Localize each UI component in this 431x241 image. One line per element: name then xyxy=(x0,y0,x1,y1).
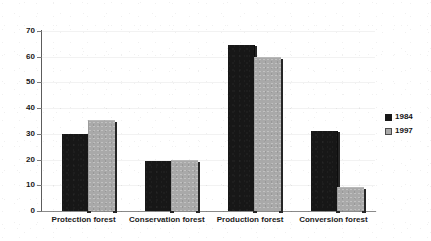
bar-chart: 010203040506070 Protection forestConserv… xyxy=(0,0,431,241)
legend-item-1997: 1997 xyxy=(385,124,431,138)
bar-1997-production-forest xyxy=(254,57,281,211)
bar-group xyxy=(311,31,363,211)
y-tick-label: 10 xyxy=(0,181,35,189)
bar-1984-protection-forest xyxy=(62,134,89,211)
legend-label-1984: 1984 xyxy=(395,113,413,121)
y-tick-label: 70 xyxy=(0,27,35,35)
bar-1984-production-forest xyxy=(228,45,255,211)
y-tick-label: 20 xyxy=(0,156,35,164)
bar-1984-conservation-forest xyxy=(145,161,172,211)
category-label: Conversion forest xyxy=(292,215,375,225)
plot-area xyxy=(42,31,375,211)
bar-group xyxy=(145,31,197,211)
bar-1997-protection-forest xyxy=(88,120,115,211)
y-tick-label: 50 xyxy=(0,78,35,86)
y-tick-label: 0 xyxy=(0,207,35,215)
x-axis-line xyxy=(41,211,376,212)
bar-1997-conservation-forest xyxy=(171,160,198,211)
category-label: Production forest xyxy=(209,215,292,225)
legend-label-1997: 1997 xyxy=(395,127,413,135)
category-label: Protection forest xyxy=(42,215,125,225)
bar-group xyxy=(62,31,114,211)
category-label: Conservation forest xyxy=(125,215,208,225)
chart-legend: 1984 1997 xyxy=(385,110,431,138)
y-tick-label: 60 xyxy=(0,53,35,61)
y-tick-label: 30 xyxy=(0,130,35,138)
y-tick-label: 40 xyxy=(0,104,35,112)
legend-item-1984: 1984 xyxy=(385,110,431,124)
bar-1997-conversion-forest xyxy=(337,187,364,211)
light-square-icon xyxy=(385,128,392,135)
dark-square-icon xyxy=(385,114,392,121)
bar-1984-conversion-forest xyxy=(311,131,338,211)
bar-group xyxy=(228,31,280,211)
y-tick-mark xyxy=(37,211,42,212)
